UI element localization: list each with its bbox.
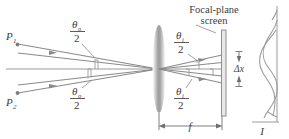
focal-plane-screen bbox=[222, 30, 227, 116]
optics-diagram-figure: Focal-plane screen P 1 P 2 θ o 2 θ o 2 bbox=[0, 0, 289, 139]
label-p2: P 2 bbox=[5, 96, 17, 111]
theta-i-lower-subscript: i bbox=[182, 92, 184, 99]
focal-length-dimension: f bbox=[159, 113, 223, 132]
angle-label-theta-o-upper: θ o 2 bbox=[70, 18, 95, 58]
label-p2-base: P bbox=[5, 96, 13, 108]
delta-x-label: Δx bbox=[233, 64, 245, 74]
theta-o-upper-denominator: 2 bbox=[74, 32, 80, 44]
figure-title-line2: screen bbox=[201, 15, 229, 26]
angle-label-theta-o-lower: θ o 2 bbox=[70, 80, 92, 111]
title-leader-line bbox=[196, 25, 216, 33]
ray-bundle-p1 bbox=[18, 44, 158, 69]
focal-length-label: f bbox=[188, 120, 193, 132]
figure-title-line1: Focal-plane bbox=[189, 4, 239, 15]
label-p1: P 1 bbox=[5, 30, 17, 45]
label-p2-subscript: 2 bbox=[13, 103, 17, 111]
theta-o-lower-denominator: 2 bbox=[74, 99, 80, 111]
theta-o-upper-subscript: o bbox=[78, 25, 82, 32]
theta-o-lower-subscript: o bbox=[78, 92, 82, 99]
image-rays-upper bbox=[159, 55, 222, 69]
angle-label-theta-i-upper: θ i 2 bbox=[174, 29, 198, 61]
source-point-p2 bbox=[16, 91, 20, 95]
delta-x-dimension: Δx bbox=[233, 52, 245, 87]
label-p1-base: P bbox=[5, 30, 13, 42]
theta-i-lower-denominator: 2 bbox=[178, 99, 184, 111]
intensity-label: I bbox=[259, 125, 265, 137]
label-p1-subscript: 1 bbox=[13, 37, 17, 45]
intensity-curve-tail bbox=[268, 10, 277, 117]
angle-label-theta-i-lower: θ i 2 bbox=[174, 79, 192, 111]
theta-i-upper-denominator: 2 bbox=[178, 43, 184, 55]
theta-i-upper-subscript: i bbox=[182, 36, 184, 43]
